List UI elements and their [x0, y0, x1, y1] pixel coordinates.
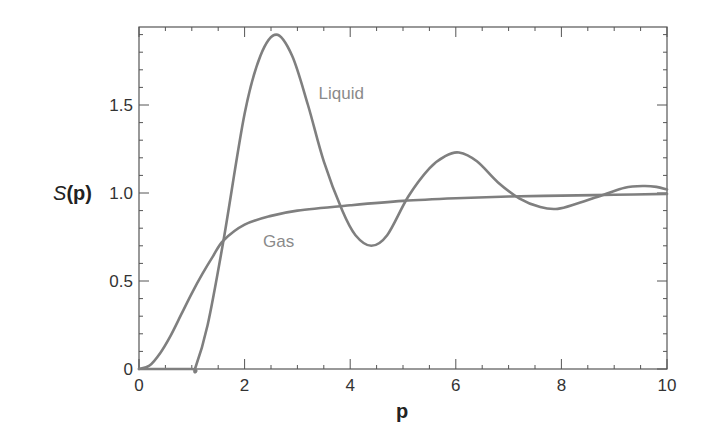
series-line-gas — [139, 194, 667, 369]
y-axis-label-s: S — [53, 182, 67, 204]
plot-frame — [139, 27, 667, 369]
x-tick-label: 0 — [134, 376, 143, 395]
x-tick-label: 8 — [557, 376, 566, 395]
y-axis-label-arg: (p) — [66, 182, 92, 204]
x-tick-label: 10 — [658, 376, 677, 395]
y-tick-label: 1.5 — [109, 96, 133, 115]
x-tick-label: 2 — [240, 376, 249, 395]
series-line-liquid — [139, 35, 667, 373]
plot-border — [139, 27, 667, 369]
y-axis-label: S(p) — [53, 182, 92, 204]
series-label-liquid: Liquid — [319, 84, 364, 103]
data-series — [139, 35, 667, 373]
y-tick-label: 0 — [124, 360, 133, 379]
x-axis-label: p — [396, 400, 408, 422]
structure-factor-chart: 0246810 00.51.01.5 LiquidGas p S(p) — [0, 0, 711, 447]
series-label-gas: Gas — [263, 232, 294, 251]
axis-ticks — [139, 27, 667, 369]
y-tick-label: 0.5 — [109, 272, 133, 291]
x-tick-labels: 0246810 — [134, 376, 676, 395]
x-tick-label: 4 — [345, 376, 354, 395]
x-tick-label: 6 — [451, 376, 460, 395]
y-tick-labels: 00.51.01.5 — [109, 96, 133, 379]
y-tick-label: 1.0 — [109, 184, 133, 203]
